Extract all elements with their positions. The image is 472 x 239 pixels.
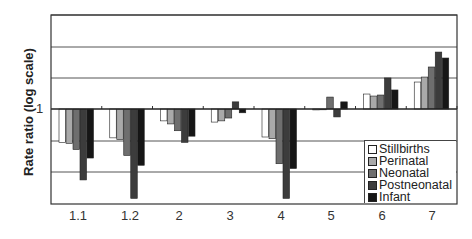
bar-perinatal-1.1 — [66, 109, 73, 143]
bar-postneonatal-3 — [232, 102, 239, 109]
bar-neonatal-2 — [175, 109, 182, 131]
y-tick-label-1: 1 — [36, 101, 43, 116]
legend-item-infant: Infant — [368, 191, 456, 203]
bar-infant-6 — [392, 90, 399, 109]
bar-neonatal-3 — [225, 109, 232, 118]
bar-stillbirths-4 — [262, 109, 269, 137]
legend-swatch — [368, 145, 377, 154]
bar-stillbirths-6 — [364, 94, 371, 109]
bar-postneonatal-5 — [334, 109, 341, 117]
bar-neonatal-7 — [428, 67, 435, 109]
x-tick-label: 4 — [277, 208, 284, 223]
y-axis-label: Rate ratio (log scale) — [21, 48, 36, 176]
bar-stillbirths-1.2 — [110, 109, 117, 138]
bar-stillbirths-3 — [211, 109, 218, 122]
bar-infant-1.1 — [87, 109, 94, 158]
bar-stillbirths-7 — [414, 82, 421, 109]
bar-infant-7 — [442, 58, 449, 109]
bar-neonatal-5 — [327, 97, 334, 109]
bar-perinatal-7 — [421, 77, 428, 109]
bar-neonatal-1.2 — [124, 109, 131, 155]
bar-stillbirths-2 — [161, 109, 168, 121]
x-tick-label: 6 — [378, 208, 385, 223]
bar-infant-5 — [341, 102, 348, 109]
bar-stillbirths-1.1 — [59, 109, 66, 142]
bar-postneonatal-2 — [182, 109, 189, 142]
legend-swatch — [368, 169, 377, 178]
legend: Stillbirths Perinatal Neonatal Postneona… — [364, 140, 456, 203]
x-tick-label: 1.2 — [121, 208, 139, 223]
bar-perinatal-6 — [371, 96, 378, 109]
bar-postneonatal-1.1 — [80, 109, 87, 180]
bar-infant-2 — [189, 109, 196, 136]
x-tick-label: 1.1 — [69, 208, 87, 223]
bar-postneonatal-1.2 — [131, 109, 138, 198]
bar-neonatal-4 — [276, 109, 283, 164]
x-tick-label: 5 — [327, 208, 334, 223]
bar-infant-1.2 — [138, 109, 145, 165]
bar-neonatal-6 — [378, 95, 385, 109]
legend-swatch — [368, 193, 377, 202]
x-tick-label: 2 — [175, 208, 182, 223]
x-tick-label: 7 — [428, 208, 435, 223]
legend-swatch — [368, 157, 377, 166]
legend-label: Infant — [379, 191, 410, 203]
x-tick-label: 3 — [226, 208, 233, 223]
bar-neonatal-1.1 — [73, 109, 80, 150]
bar-infant-4 — [290, 109, 297, 169]
bar-perinatal-1.2 — [117, 109, 124, 140]
legend-swatch — [368, 181, 377, 190]
bar-perinatal-3 — [218, 109, 225, 121]
bar-postneonatal-7 — [435, 52, 442, 109]
bar-postneonatal-4 — [283, 109, 290, 198]
bar-perinatal-4 — [269, 109, 276, 139]
bar-perinatal-2 — [168, 109, 175, 124]
bar-postneonatal-6 — [385, 78, 392, 109]
